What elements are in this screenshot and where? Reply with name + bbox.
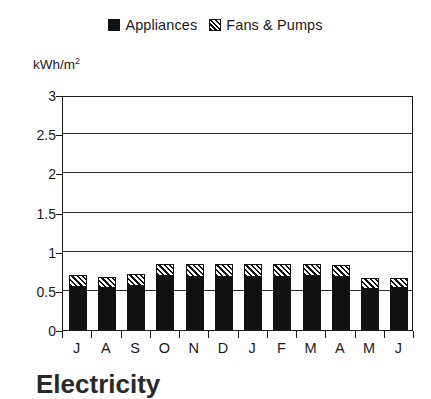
x-axis-tick-mark <box>384 331 385 338</box>
bar-segment-fans-pumps <box>273 264 291 277</box>
x-axis-tick-mark <box>267 331 268 338</box>
y-axis-tick-label: 0.5 <box>37 285 56 299</box>
x-axis-tick-label: O <box>159 341 170 356</box>
x-axis-tick-label: M <box>363 341 375 356</box>
y-axis-tick-label: 1 <box>48 246 56 260</box>
bar-group <box>303 97 321 330</box>
bar-segment-fans-pumps <box>303 264 321 276</box>
legend-label-appliances: Appliances <box>125 18 197 33</box>
bar-segment-fans-pumps <box>361 278 379 289</box>
bar-group <box>156 97 174 330</box>
bar-segment-appliances <box>273 277 291 330</box>
y-axis-tick-label: 1.5 <box>37 207 56 221</box>
y-axis-tick-label: 2.5 <box>37 128 56 142</box>
x-axis-tick-mark <box>325 331 326 338</box>
legend-entry-appliances: Appliances <box>108 18 197 33</box>
x-axis-tick-mark <box>179 331 180 338</box>
y-axis-tick-label: 3 <box>48 89 56 103</box>
bar-segment-appliances <box>390 288 408 330</box>
x-axis-tick-mark <box>355 331 356 338</box>
bar-segment-appliances <box>332 277 350 330</box>
bar-group <box>98 97 116 330</box>
bar-segment-appliances <box>186 277 204 330</box>
legend-entry-fans-pumps: Fans & Pumps <box>209 18 322 33</box>
hatched-square-icon <box>209 19 221 31</box>
bar-segment-fans-pumps <box>332 265 350 277</box>
bar-group <box>361 97 379 330</box>
x-axis-tick-mark <box>296 331 297 338</box>
bar-segment-fans-pumps <box>127 274 145 286</box>
x-axis-tick-label: N <box>188 341 198 356</box>
x-axis-tick-mark <box>91 331 92 338</box>
legend-label-fans-pumps: Fans & Pumps <box>226 18 322 33</box>
bar-segment-fans-pumps <box>390 278 408 289</box>
bar-group <box>390 97 408 330</box>
bar-segment-appliances <box>215 277 233 330</box>
x-axis-tick-label: J <box>395 341 402 356</box>
x-axis-tick-label: D <box>218 341 228 356</box>
x-axis-tick-label: F <box>277 341 286 356</box>
x-axis-tick-label: A <box>335 341 345 356</box>
bar-group <box>69 97 87 330</box>
bar-segment-appliances <box>69 287 87 330</box>
bar-segment-appliances <box>156 276 174 330</box>
x-axis-tick-label: A <box>101 341 111 356</box>
bar-segment-appliances <box>98 288 116 330</box>
bar-segment-fans-pumps <box>156 264 174 276</box>
bar-segment-appliances <box>127 286 145 330</box>
y-axis-unit-superscript: 2 <box>75 56 80 66</box>
bar-segment-appliances <box>244 277 262 330</box>
y-axis-tick-label: 2 <box>48 167 56 181</box>
x-axis-tick-label: J <box>73 341 80 356</box>
bar-group <box>127 97 145 330</box>
bar-segment-appliances <box>303 276 321 330</box>
bars-layer <box>63 97 412 330</box>
x-axis-tick-mark <box>121 331 122 338</box>
solid-square-icon <box>108 19 120 31</box>
bar-segment-fans-pumps <box>215 264 233 277</box>
x-axis-tick-mark <box>238 331 239 338</box>
x-axis-tick-mark <box>413 331 414 338</box>
chart-legend: Appliances Fans & Pumps <box>0 18 431 33</box>
plot-area <box>62 96 413 331</box>
x-axis-tick-label: J <box>249 341 256 356</box>
bar-segment-fans-pumps <box>186 264 204 277</box>
bar-segment-fans-pumps <box>98 277 116 288</box>
chart-title: Electricity <box>36 371 160 397</box>
x-axis-tick-mark <box>150 331 151 338</box>
bar-group <box>244 97 262 330</box>
bar-group <box>332 97 350 330</box>
bar-segment-fans-pumps <box>244 264 262 277</box>
x-axis-ticks <box>62 331 413 339</box>
x-axis-tick-mark <box>208 331 209 338</box>
x-axis-tick-label: M <box>305 341 317 356</box>
x-axis-tick-label: S <box>130 341 140 356</box>
x-axis-tick-mark <box>62 331 63 338</box>
bar-group <box>273 97 291 330</box>
y-axis-unit-text: kWh/m <box>33 57 75 72</box>
bar-segment-fans-pumps <box>69 275 87 287</box>
bar-group <box>186 97 204 330</box>
bar-segment-appliances <box>361 289 379 330</box>
y-axis-tick-label: 0 <box>48 324 56 338</box>
y-axis-unit-label: kWh/m2 <box>33 58 80 72</box>
bar-group <box>215 97 233 330</box>
x-axis-tick-labels: JASONDJFMAMJ <box>62 341 413 361</box>
